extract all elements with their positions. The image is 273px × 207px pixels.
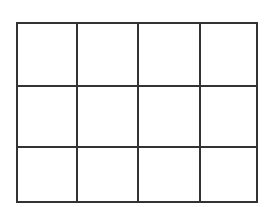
grid-cell-r3-c1 [18,148,78,201]
grid-cell-r3-c4 [201,148,256,201]
grid-cell-r2-c3 [139,87,201,148]
grid-cell-r3-c2 [78,148,139,201]
grid-cell-r2-c4 [201,87,256,148]
grid-cell-r3-c3 [139,148,201,201]
grid-cell-r1-c3 [139,24,201,87]
empty-grid [16,22,258,203]
grid-cell-r1-c2 [78,24,139,87]
grid-cell-r1-c4 [201,24,256,87]
canvas [0,0,273,207]
grid-cell-r2-c2 [78,87,139,148]
grid-cell-r1-c1 [18,24,78,87]
grid-cell-r2-c1 [18,87,78,148]
